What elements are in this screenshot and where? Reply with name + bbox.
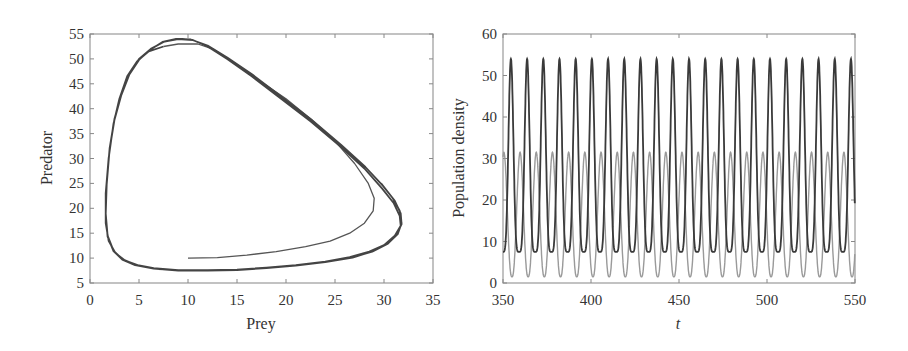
x-tick-label: 35	[426, 292, 441, 308]
y-tick-label: 10	[482, 234, 497, 250]
y-tick-label: 30	[69, 151, 84, 167]
limit-cycle-line	[106, 39, 402, 271]
x-tick-label: 20	[279, 292, 294, 308]
transient-line	[164, 44, 375, 258]
y-tick-label: 25	[69, 175, 84, 191]
x-axis-ticks: 05101520253035	[86, 34, 440, 308]
y-tick-label: 10	[69, 250, 84, 266]
y-tick-label: 55	[69, 26, 84, 42]
y-tick-label: 50	[69, 51, 84, 67]
x-tick-label: 550	[844, 292, 867, 308]
y-tick-label: 20	[482, 192, 497, 208]
x-tick-label: 500	[756, 292, 779, 308]
predator-line	[503, 59, 855, 252]
x-tick-label: 30	[377, 292, 392, 308]
x-tick-label: 15	[230, 292, 245, 308]
x-tick-label: 10	[181, 292, 196, 308]
y-tick-label: 30	[482, 151, 497, 167]
x-tick-label: 5	[135, 292, 143, 308]
trajectory-lines	[106, 39, 402, 271]
y-tick-label: 40	[482, 109, 497, 125]
y-axis-label: Predator	[38, 130, 55, 185]
y-tick-label: 45	[69, 76, 84, 92]
y-axis-ticks: 510152025303540455055	[69, 26, 433, 291]
x-tick-label: 400	[580, 292, 603, 308]
phase-plane-chart: 05101520253035 510152025303540455055 Pre…	[0, 0, 454, 351]
y-tick-label: 5	[77, 275, 85, 291]
x-tick-label: 25	[328, 292, 343, 308]
y-tick-label: 35	[69, 126, 84, 142]
phase-plane-plot: 05101520253035 510152025303540455055 Pre…	[0, 0, 454, 351]
y-tick-label: 15	[69, 225, 84, 241]
y-tick-label: 0	[490, 275, 498, 291]
x-axis-label: t	[676, 315, 681, 332]
x-tick-label: 450	[668, 292, 691, 308]
x-tick-label: 350	[492, 292, 515, 308]
time-series-chart: 350400450500550 0102030405060 t Populati…	[440, 0, 908, 351]
x-axis-label: Prey	[246, 315, 275, 333]
y-axis-label: Population density	[450, 98, 468, 218]
y-tick-label: 50	[482, 68, 497, 84]
time-series-plot: 350400450500550 0102030405060 t Populati…	[440, 0, 908, 351]
y-tick-label: 40	[69, 101, 84, 117]
x-tick-label: 0	[86, 292, 94, 308]
population-lines	[503, 59, 855, 277]
y-tick-label: 20	[69, 200, 84, 216]
y-tick-label: 60	[482, 26, 497, 42]
